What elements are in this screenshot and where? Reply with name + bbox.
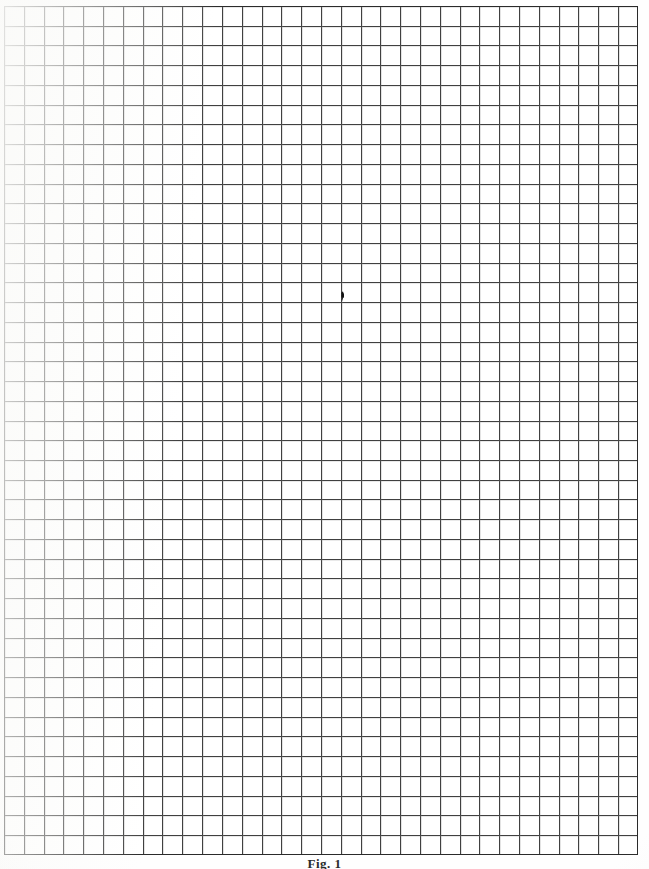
pen-tick-mark-icon bbox=[340, 291, 346, 302]
footer-caption-clipped: Fig. 1 bbox=[0, 858, 649, 869]
scanned-page: Fig. 1 bbox=[0, 0, 649, 869]
footer-caption-text: Fig. 1 bbox=[0, 858, 649, 869]
grid-paper-sheet bbox=[4, 6, 638, 855]
